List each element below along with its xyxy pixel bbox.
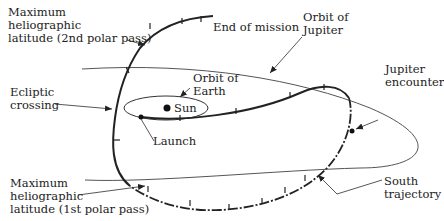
orbit-earth-leader <box>180 88 190 97</box>
jupiter-encounter-leader <box>356 120 378 129</box>
south-trajectory-leader <box>318 175 382 194</box>
outbound-trajectory <box>141 87 349 119</box>
end-of-mission-label: End of mission <box>213 21 299 34</box>
launch-label: Launch <box>153 135 196 148</box>
jupiter-encounter-label: Jupiter encounter <box>385 63 444 89</box>
orbit-of-jupiter-label: Orbit of Jupiter <box>303 11 348 37</box>
sun-label: Sun <box>174 102 197 115</box>
sun-icon <box>164 105 171 112</box>
orbit-of-earth-label: Orbit of Earth <box>193 72 238 98</box>
orbit-jupiter-leader <box>270 37 302 73</box>
ecliptic-crossing-leader <box>55 104 112 109</box>
launch-point-icon <box>139 115 144 120</box>
jupiter-encounter-point-icon <box>350 129 355 134</box>
max-lat-1st-label: Maximum heliographic latitude (1st polar… <box>10 177 149 216</box>
max-lat-2nd-label: Maximum heliographic latitude (2nd polar… <box>8 6 151 45</box>
south-trajectory-label: South trajectory <box>384 175 441 201</box>
ecliptic-crossing-label: Ecliptic crossing <box>10 86 59 112</box>
south-trajectory <box>130 98 351 210</box>
